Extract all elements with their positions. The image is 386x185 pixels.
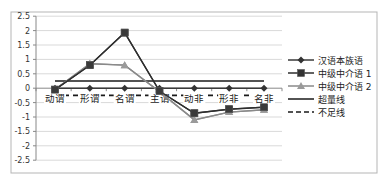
y-tick-label: 0.5 (17, 70, 30, 79)
y-tick-label: 2 (25, 27, 30, 36)
y-tick-label: 1.5 (17, 41, 30, 50)
y-tick-label: 1 (25, 55, 30, 64)
y-tick-label: -1.5 (14, 127, 30, 136)
y-tick-label: -2 (22, 142, 30, 151)
legend-label: 汉语本族语 (318, 55, 363, 66)
legend-label: 超量线 (318, 94, 345, 105)
y-tick-label: -2.5 (14, 156, 30, 165)
category-label: 动非 (184, 93, 204, 104)
category-label: 形谓 (80, 93, 100, 104)
legend-label: 中级中介语 1 (318, 68, 372, 79)
line-chart: 2.521.510.50-0.5-1-1.5-2-2.5 动谓形谓名谓主谓动非形… (0, 0, 386, 185)
y-tick-label: -0.5 (14, 99, 30, 108)
category-label: 动谓 (45, 93, 65, 104)
y-tick-label: 2.5 (17, 12, 30, 21)
legend-label: 中级中介语 2 (318, 81, 372, 92)
y-tick-label: 0 (25, 84, 30, 93)
legend-label: 不足线 (318, 107, 345, 118)
category-label: 名谓 (115, 93, 135, 104)
category-label: 名非 (254, 93, 274, 104)
y-tick-label: -1 (22, 113, 30, 122)
category-label: 形非 (219, 93, 239, 104)
